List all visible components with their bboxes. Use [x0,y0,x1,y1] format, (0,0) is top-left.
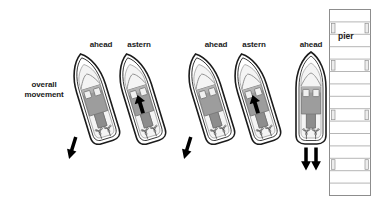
pier-label: pier [338,31,354,41]
boat-2 [112,50,168,147]
overall-movement-line2: movement [14,90,74,100]
overall-movement-line1: overall [14,80,74,90]
boat-5-engine-label: ahead [289,40,333,50]
boat-1-movement-arrow [64,135,80,160]
boat-4-engine-label: astern [232,40,276,50]
boat-4 [227,50,283,147]
boat-5 [296,52,326,144]
overall-movement-label: overall movement [14,80,74,99]
diagram-svg [0,0,377,204]
boat-3-movement-arrow [179,135,195,160]
boat-1 [66,50,122,147]
boat-5-movement-arrows [301,148,321,171]
boat-2-engine-label: astern [117,40,161,50]
figure-canvas: overall movement ahead astern ahead aste… [0,0,377,204]
boat-3 [181,50,237,147]
